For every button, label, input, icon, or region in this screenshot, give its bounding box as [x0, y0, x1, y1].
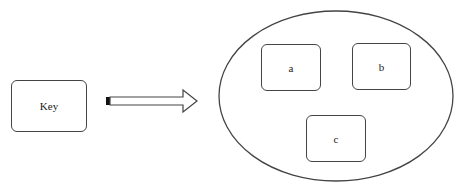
item-box-a: a: [261, 44, 321, 91]
item-label-b: b: [379, 61, 385, 73]
item-box-c: c: [306, 115, 366, 162]
item-box-b: b: [352, 43, 411, 90]
item-label-a: a: [289, 62, 294, 74]
item-label-c: c: [334, 133, 339, 145]
key-box: Key: [11, 80, 87, 132]
right-arrow-icon: [106, 90, 197, 112]
key-label: Key: [40, 100, 58, 112]
